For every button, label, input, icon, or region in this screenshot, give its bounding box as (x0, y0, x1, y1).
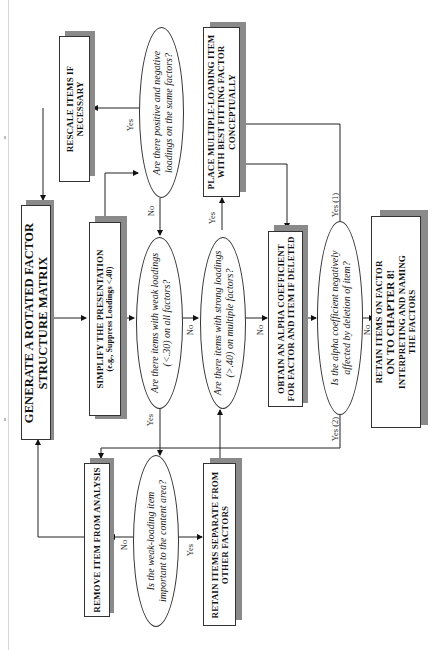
decision-alpha-negatively-affected: Is the alpha coefficient negatively affe… (317, 221, 363, 415)
node-label: RESCALE ITEMS IF NECESSARY (64, 66, 85, 153)
decision-label: Are there items with weak loadings (<.30… (148, 253, 171, 393)
edge-label-strong-no: No (255, 325, 265, 335)
node-label: REMOVE ITEM FROM ANALYSIS (92, 467, 102, 612)
node-label: RETAIN ITEMS ON FACTOR ON TO CHAPTER 8! … (374, 255, 418, 389)
node-obtain-alpha-coefficient: OBTAIN AN ALPHA COEFFICIENT FOR FACTOR A… (268, 231, 303, 407)
decision-label: Is the weak-loading item important to th… (145, 480, 168, 602)
node-label: SIMPLIFY THE PRESENTATION (e.g., Suppres… (95, 249, 115, 388)
decision-label: Are there positive and negative loadings… (150, 50, 173, 174)
edge-label-strong-yes: Yes (207, 212, 217, 224)
decision-strong-loadings: Are there items with strong loadings (>.… (200, 237, 246, 409)
node-generate-matrix: GENERATE A ROTATED FACTOR STRUCTURE MATR… (21, 205, 51, 440)
edge-label-posneg-yes: Yes (125, 119, 135, 131)
node-retain-items-separate: RETAIN ITEMS SEPARATE FROM OTHER FACTORS (203, 463, 236, 626)
node-label: RETAIN ITEMS SEPARATE FROM OTHER FACTORS (209, 471, 230, 618)
node-simplify-presentation: SIMPLIFY THE PRESENTATION (e.g., Suppres… (89, 222, 121, 416)
edge-label-important-no: No (119, 540, 129, 550)
node-label: OBTAIN AN ALPHA COEFFICIENT FOR FACTOR A… (275, 236, 296, 401)
node-label: PLACE MULTIPLE-LOADING ITEM WITH BEST FI… (206, 35, 237, 190)
edge-label-alpha-no: No (362, 325, 372, 335)
edge-label-important-yes: Yes (185, 544, 195, 556)
node-remove-item: REMOVE ITEM FROM ANALYSIS (84, 463, 110, 617)
decision-label: Is the alpha coefficient negatively affe… (329, 251, 352, 386)
decision-weak-loadings: Are there items with weak loadings (<.30… (136, 237, 183, 409)
decision-label: Are there items with strong loadings (>.… (212, 251, 235, 396)
node-rescale-items: RESCALE ITEMS IF NECESSARY (59, 36, 90, 182)
edge-label-posneg-no: No (146, 206, 156, 216)
node-place-multiple-loading-item: PLACE MULTIPLE-LOADING ITEM WITH BEST FI… (203, 27, 240, 197)
decision-positive-negative-loadings: Are there positive and negative loadings… (139, 27, 184, 198)
node-retain-items-on-factor: RETAIN ITEMS ON FACTOR ON TO CHAPTER 8! … (371, 216, 421, 428)
flowchart-canvas: GENERATE A ROTATED FACTOR STRUCTURE MATR… (0, 0, 445, 650)
edge-label-alpha-yes-1: Yes (1) (330, 193, 340, 217)
edge-label-alpha-yes-2: Yes (2) (330, 417, 340, 441)
edge-label-weak-no: No (185, 325, 195, 335)
decision-weak-item-important: Is the weak-loading item important to th… (133, 455, 179, 627)
node-label: GENERATE A ROTATED FACTOR STRUCTURE MATR… (22, 222, 51, 422)
edge-label-weak-yes: Yes (145, 414, 155, 426)
